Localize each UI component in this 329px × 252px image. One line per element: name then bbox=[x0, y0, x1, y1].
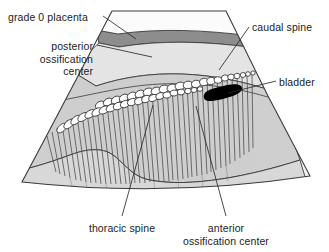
label-posterior-line3: center bbox=[0, 65, 93, 78]
sector-contents bbox=[0, 0, 329, 252]
label-bladder: bladder bbox=[279, 76, 315, 89]
label-anterior-line1: anterior bbox=[161, 222, 291, 235]
label-anterior-ossification-center: anterior ossification center bbox=[161, 222, 291, 247]
label-anterior-line2: ossification center bbox=[161, 235, 291, 248]
label-posterior-line1: posterior bbox=[0, 40, 93, 53]
label-caudal-spine: caudal spine bbox=[252, 21, 312, 34]
label-posterior-line2: ossification bbox=[0, 53, 93, 66]
label-grade-0-placenta-line1: grade 0 placenta bbox=[8, 11, 88, 24]
label-caudal-spine-line1: caudal spine bbox=[252, 21, 312, 34]
label-bladder-line1: bladder bbox=[279, 76, 315, 89]
label-posterior-ossification-center: posterior ossification center bbox=[0, 40, 93, 78]
ultrasound-scene bbox=[0, 0, 329, 252]
ultrasound-illustration-figure: grade 0 placenta posterior ossification … bbox=[0, 0, 329, 252]
label-grade-0-placenta: grade 0 placenta bbox=[8, 11, 88, 24]
